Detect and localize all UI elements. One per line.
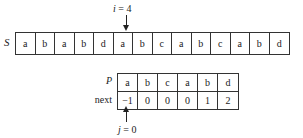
next-cell: 0: [158, 92, 178, 109]
s-cell: a: [55, 33, 75, 54]
s-cell: c: [211, 33, 231, 54]
pointer-i-eq: =: [116, 3, 127, 14]
s-cell: a: [16, 33, 36, 54]
next-cell: 2: [218, 92, 238, 109]
next-row: −1 0 0 0 1 2: [118, 91, 238, 109]
s-cell: b: [36, 33, 56, 54]
string-s-array: a b a b d a b c a b c a b d: [15, 32, 290, 55]
s-cell: b: [133, 33, 153, 54]
pointer-j-label: j = 0: [118, 124, 136, 135]
s-cell: d: [94, 33, 114, 54]
pattern-row: a b c a b d: [118, 74, 238, 91]
s-cell: b: [192, 33, 212, 54]
s-cell: b: [250, 33, 270, 54]
pointer-j-value: 0: [131, 124, 136, 135]
arrow-up-icon: [126, 110, 127, 122]
next-cell: 0: [178, 92, 198, 109]
pattern-next-table: a b c a b d −1 0 0 0 1 2: [117, 73, 239, 110]
s-cell: d: [270, 33, 290, 54]
next-cell: 0: [138, 92, 158, 109]
next-cell: 1: [198, 92, 218, 109]
arrow-down-icon: [126, 15, 127, 27]
p-cell: b: [138, 74, 158, 91]
pointer-i-value: 4: [126, 3, 131, 14]
p-cell: d: [218, 74, 238, 91]
p-cell: a: [178, 74, 198, 91]
pattern-p-label: P: [92, 75, 112, 86]
s-cell: a: [114, 33, 134, 54]
s-cell: b: [75, 33, 95, 54]
p-cell: b: [198, 74, 218, 91]
pointer-i-label: i = 4: [113, 3, 131, 14]
string-s-label: S: [4, 36, 10, 48]
p-cell: c: [158, 74, 178, 91]
s-cell: a: [172, 33, 192, 54]
p-cell: a: [118, 74, 138, 91]
pointer-j-eq: =: [121, 124, 132, 135]
next-label: next: [82, 94, 112, 105]
s-cell: c: [153, 33, 173, 54]
s-cell: a: [231, 33, 251, 54]
